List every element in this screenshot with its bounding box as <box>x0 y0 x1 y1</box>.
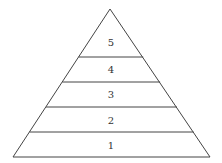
pyramid-outline <box>13 9 210 157</box>
level-3-label: 3 <box>108 89 114 100</box>
level-1-label: 1 <box>108 140 114 151</box>
level-4-label: 4 <box>108 64 114 75</box>
level-5-label: 5 <box>108 37 114 48</box>
level-2-label: 2 <box>108 115 114 126</box>
pyramid-diagram: 5 4 3 2 1 <box>0 0 222 163</box>
